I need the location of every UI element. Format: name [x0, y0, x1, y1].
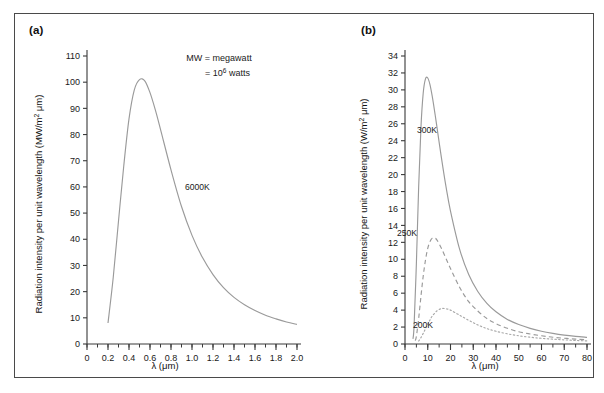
y-tick-label: 20	[388, 170, 398, 180]
data-curve-200k	[419, 308, 587, 341]
y-tick-label: 34	[388, 51, 398, 61]
y-tick-label: 10	[388, 254, 398, 264]
y-tick-label: 70	[70, 156, 80, 166]
panel-a-curves	[108, 79, 297, 325]
data-curve-6000k	[108, 79, 297, 325]
y-tick-label: 90	[70, 104, 80, 114]
x-tick-label: 40	[491, 353, 501, 363]
panel-a-curve-label-6000k: 6000K	[185, 182, 210, 192]
y-tick-label: 24	[388, 136, 398, 146]
y-tick-label: 40	[70, 234, 80, 244]
y-tick-label: 26	[388, 119, 398, 129]
panel-b-axes	[401, 50, 591, 350]
panel-a-note-line1: MW = megawatt	[186, 53, 252, 63]
x-tick-label: 0.2	[102, 353, 115, 363]
x-tick-label: 1.6	[249, 353, 262, 363]
panel-a-plot: Radiation intensity per unit wavelength …	[15, 14, 305, 379]
panel-b-y-axis-title: Radiation intensity per unit wavelength …	[358, 99, 370, 310]
x-tick-label: 0.4	[123, 353, 136, 363]
y-tick-label: 0	[393, 339, 398, 349]
data-curve-250k	[415, 238, 587, 341]
x-tick-label: 1.4	[228, 353, 241, 363]
y-tick-label: 12	[388, 238, 398, 248]
x-tick-label: 0.6	[144, 353, 157, 363]
x-tick-label: 20	[445, 353, 455, 363]
y-tick-label: 10	[70, 313, 80, 323]
x-tick-label: 1.2	[207, 353, 220, 363]
x-tick-label: 70	[559, 353, 569, 363]
panel-b: (b) Radiation intensity per unit wavelen…	[305, 14, 595, 377]
x-tick-label: 60	[536, 353, 546, 363]
y-tick-label: 30	[388, 85, 398, 95]
panel-a: (a) Radiation intensity per unit wavelen…	[15, 14, 305, 377]
x-tick-label: 30	[468, 353, 478, 363]
x-tick-label: 0	[84, 353, 89, 363]
panel-b-plot: Radiation intensity per unit wavelength …	[305, 14, 595, 379]
panel-b-curve-label-300k: 300K	[417, 125, 437, 135]
figure-root: (a) Radiation intensity per unit wavelen…	[0, 0, 604, 393]
y-tick-label: 32	[388, 68, 398, 78]
y-tick-label: 6	[393, 288, 398, 298]
x-tick-label: 80	[582, 353, 592, 363]
figure-frame: (a) Radiation intensity per unit wavelen…	[14, 13, 594, 378]
x-tick-label: 0	[402, 353, 407, 363]
y-tick-label: 0	[75, 339, 80, 349]
y-tick-label: 30	[70, 261, 80, 271]
y-tick-label: 80	[70, 130, 80, 140]
x-tick-label: 0.8	[165, 353, 178, 363]
x-tick-label: 10	[423, 353, 433, 363]
panel-b-curve-label-200k: 200K	[413, 320, 433, 330]
x-tick-label: 2.0	[291, 353, 304, 363]
data-curve-300k	[413, 77, 587, 339]
y-tick-label: 22	[388, 153, 398, 163]
y-tick-label: 2	[393, 322, 398, 332]
x-tick-label: 50	[514, 353, 524, 363]
y-tick-label: 20	[70, 287, 80, 297]
y-tick-label: 18	[388, 187, 398, 197]
panel-a-axes	[83, 50, 301, 350]
y-tick-label: 100	[65, 77, 80, 87]
y-tick-label: 50	[70, 208, 80, 218]
y-tick-label: 4	[393, 305, 398, 315]
panel-a-y-axis-title: Radiation intensity per unit wavelength …	[33, 95, 45, 314]
y-tick-label: 16	[388, 204, 398, 214]
y-tick-label: 8	[393, 271, 398, 281]
x-tick-label: 1.8	[270, 353, 283, 363]
y-tick-label: 28	[388, 102, 398, 112]
panel-b-curves	[413, 77, 587, 341]
y-tick-label: 60	[70, 182, 80, 192]
panel-a-note-line2: = 106 watts	[205, 67, 250, 79]
y-tick-label: 110	[66, 51, 80, 61]
panel-b-curve-label-250k: 250K	[397, 228, 417, 238]
x-tick-label: 1.0	[186, 353, 199, 363]
